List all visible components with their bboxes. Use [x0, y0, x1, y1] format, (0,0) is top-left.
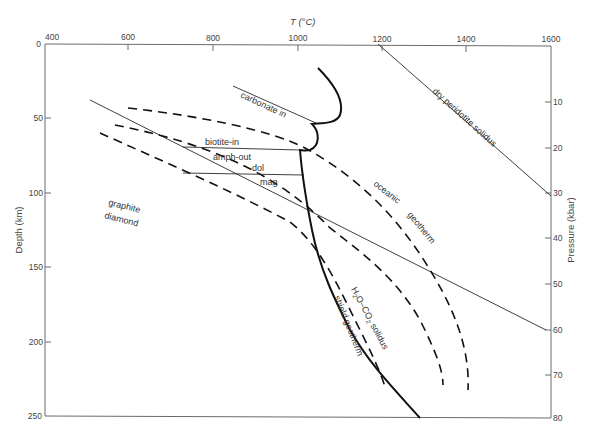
y2-axis-title: Pressure (kbar) [565, 197, 576, 262]
label-biotite-in: biotite-in [205, 137, 239, 147]
y2-tick-label: 10 [553, 97, 563, 107]
x-tick-label: 400 [45, 32, 59, 42]
x-tick-label: 1200 [373, 34, 392, 44]
y-tick-label: 50 [34, 113, 44, 123]
x-tick-label: 600 [121, 32, 135, 42]
x-tick-label: 1600 [542, 34, 561, 44]
y2-tick-label: 70 [553, 370, 563, 380]
y-tick-label: 250 [28, 411, 42, 421]
biotite-amph-line [183, 147, 300, 150]
y-tick-label: 200 [29, 337, 43, 347]
y2-tick-label: 30 [553, 188, 563, 198]
y-tick-label: 100 [29, 188, 43, 198]
label-mag: mag [260, 177, 278, 187]
middle-geotherm-curve [115, 125, 443, 385]
plot-frame [45, 44, 551, 418]
h2o-co2-solidus-curve [300, 68, 420, 418]
y-axis-title: Depth (km) [13, 207, 24, 254]
y2-tick-label: 40 [553, 233, 563, 243]
label-dry-peridotite-solidus: dry peridotite solidus [431, 86, 499, 149]
y2-tick-label: 20 [553, 143, 563, 153]
label-dol: dol [252, 163, 264, 173]
x-tick-label: 1400 [457, 34, 476, 44]
y-tick-label: 150 [29, 262, 43, 272]
y2-tick-label: 50 [553, 279, 563, 289]
x-tick-label: 1000 [289, 33, 308, 43]
label-amph-out: amph-out [213, 152, 252, 162]
y-axis-right: 10 20 30 40 50 60 70 80 Pressure (kbar) [545, 97, 576, 423]
y2-tick-label: 80 [553, 413, 563, 423]
x-axis-title: T (°C) [290, 16, 315, 27]
dol-mag-line [183, 173, 304, 175]
label-carbonate-in: carbonate in [239, 90, 288, 120]
y2-tick-label: 60 [553, 325, 563, 335]
x-axis: 400 600 800 1000 1200 1400 1600 T (°C) [45, 16, 561, 52]
x-tick-label: 800 [206, 33, 220, 43]
y-tick-label: 0 [36, 39, 41, 49]
phase-diagram: 400 600 800 1000 1200 1400 1600 T (°C) 0… [0, 0, 597, 442]
